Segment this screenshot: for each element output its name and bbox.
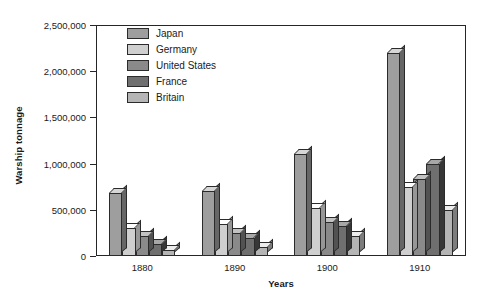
legend-swatch-icon <box>127 60 149 71</box>
x-axis-tick-label: 1900 <box>317 262 338 273</box>
bar-side <box>215 183 220 252</box>
legend-item-united-states: United States <box>127 58 216 73</box>
bar-japan-1880 <box>109 193 122 256</box>
bar-face <box>294 154 307 256</box>
bar-britain-1880 <box>162 250 175 256</box>
y-axis-tick-label: 2,500,000 <box>8 20 86 31</box>
legend-item-germany: Germany <box>127 42 216 57</box>
legend: JapanGermanyUnited StatesFranceBritain <box>127 26 216 105</box>
bar-japan-1910 <box>387 53 400 256</box>
bar-face <box>109 193 122 256</box>
y-axis-tick-label: 500,000 <box>8 204 86 215</box>
legend-label: Japan <box>156 28 183 39</box>
bar-side <box>321 200 326 252</box>
legend-swatch-icon <box>127 44 149 55</box>
y-axis-tick-label: 1,500,000 <box>8 112 86 123</box>
y-axis-tick <box>90 256 96 257</box>
legend-swatch-icon <box>127 76 149 87</box>
legend-label: Britain <box>156 92 184 103</box>
y-axis-tick-label: 0 <box>8 251 86 262</box>
legend-label: France <box>156 76 187 87</box>
bar-face <box>387 53 400 256</box>
bar-chart: Warship tonnage 0500,0001,000,0001,500,0… <box>0 0 483 296</box>
bar-face <box>162 250 175 256</box>
legend-swatch-icon <box>127 28 149 39</box>
bar-side <box>307 146 312 252</box>
legend-item-france: France <box>127 74 216 89</box>
bar-face <box>202 191 215 256</box>
y-axis-tick-label: 1,000,000 <box>8 158 86 169</box>
legend-swatch-icon <box>127 92 149 103</box>
bar-japan-1900 <box>294 154 307 256</box>
legend-label: Germany <box>156 44 197 55</box>
y-axis-label: Warship tonnage <box>13 66 24 226</box>
x-axis-tick-label: 1910 <box>409 262 430 273</box>
x-axis-tick-label: 1880 <box>132 262 153 273</box>
bar-side <box>440 155 445 252</box>
x-axis-tick-label: 1890 <box>224 262 245 273</box>
y-axis-tick-label: 2,000,000 <box>8 66 86 77</box>
bar-side <box>413 178 418 251</box>
legend-item-japan: Japan <box>127 26 216 41</box>
legend-label: United States <box>156 60 216 71</box>
legend-item-britain: Britain <box>127 90 216 105</box>
bar-side <box>426 171 431 252</box>
x-axis-label: Years <box>96 278 466 289</box>
bar-side <box>122 185 127 252</box>
bar-side <box>400 45 405 252</box>
bar-japan-1890 <box>202 191 215 256</box>
